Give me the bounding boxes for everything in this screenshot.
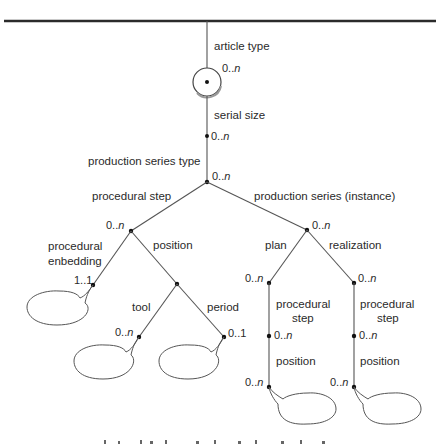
edge-plan [269, 230, 307, 283]
card-plan-position: 0..n [245, 376, 263, 388]
card-real-position: 0..n [330, 376, 348, 388]
edge-realization [307, 230, 354, 283]
card-realization: 0..n [358, 272, 376, 284]
card-procedural-embedding: 1..1 [74, 274, 92, 286]
bubble-real-position [354, 387, 421, 424]
label-plan-procedural-step-1: procedural [276, 298, 330, 310]
label-plan-position: position [276, 355, 316, 367]
label-realization: realization [329, 239, 381, 251]
label-period: period [207, 301, 239, 313]
card-real-procedural-step: 0..n [359, 329, 377, 341]
card-article-type: 0..n [222, 62, 240, 74]
bubble-tool [74, 337, 139, 379]
label-procedural-embedding-1: procedural [48, 240, 102, 252]
card-plan-procedural-step: 0..n [274, 329, 292, 341]
bubble-period [159, 337, 224, 379]
card-production-series-instance: 0..n [312, 219, 330, 231]
card-plan: 0..n [245, 272, 263, 284]
tree-diagram: article type 0..n serial size 0..n produ… [0, 0, 437, 444]
card-serial-size: 0..n [211, 130, 229, 142]
label-procedural-embedding-2: enbedding [48, 255, 102, 267]
label-real-procedural-step-2: step [377, 312, 399, 324]
label-production-series-instance: production series (instance) [254, 190, 395, 202]
caption-cutoff [104, 440, 325, 444]
label-position: position [153, 239, 193, 251]
label-article-type: article type [214, 40, 270, 52]
bubble-procedural-embedding [27, 285, 93, 325]
node-serial-size [205, 134, 209, 138]
label-procedural-step: procedural step [92, 190, 171, 202]
bubble-plan-position [269, 387, 336, 424]
label-serial-size: serial size [214, 109, 265, 121]
node-plan-procedural-step [267, 334, 271, 338]
label-plan-procedural-step-2: step [292, 312, 314, 324]
label-tool: tool [132, 301, 151, 313]
node-real-procedural-step [352, 334, 356, 338]
card-procedural-step: 0..n [106, 219, 124, 231]
label-real-procedural-step-1: procedural [360, 298, 414, 310]
label-production-series-type: production series type [88, 155, 201, 167]
card-tool: 0..n [115, 326, 133, 338]
label-plan: plan [265, 239, 287, 251]
root-node-dot [205, 80, 209, 84]
card-production-series-type: 0..n [212, 170, 230, 182]
card-period: 0..1 [228, 327, 246, 339]
label-real-position: position [360, 355, 400, 367]
